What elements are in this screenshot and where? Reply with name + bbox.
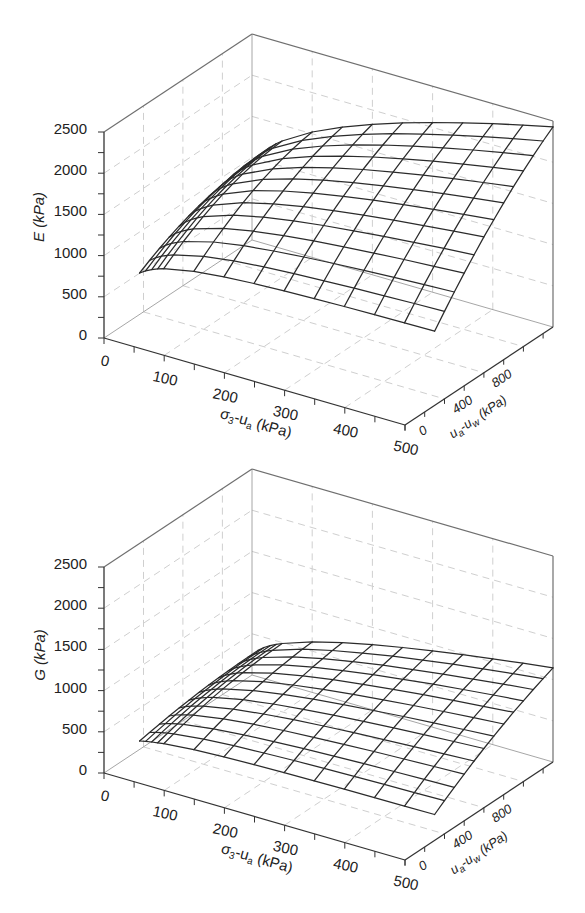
z-tick-label: 1500 [54,637,87,654]
gridlines [104,486,553,842]
z-tick-label: 500 [62,720,87,737]
chart-elastic-modulus-e: 0500100015002000250001002003004005000400… [30,34,553,458]
mesh-line-constant-sigma [405,125,523,323]
box-edge-floor-back [252,240,553,327]
mesh-line-constant-sigma [158,144,276,269]
z-axis-title: E (kPa) [30,192,47,242]
y-tick-label: 800 [488,801,515,826]
box-edge-top-left [104,34,252,132]
gridline-floor [183,286,484,373]
mesh-line-constant-sigma [374,124,492,315]
box-edge-top-left [104,469,252,567]
y-tick-label: 0 [416,857,431,874]
box-edge-top-back [252,34,553,121]
mesh-line-constant-suction [189,697,484,748]
z-tick-label: 500 [62,285,87,302]
x-tick-label: 0 [99,351,111,369]
x-tick-label: 100 [151,802,179,824]
gridline-floor [345,310,493,408]
z-tick-label: 1500 [54,202,87,219]
y-tick-label: 0 [416,422,431,439]
mesh-line-constant-suction [258,642,553,668]
gridline-back-wall [252,158,553,245]
y-tick-label: 400 [449,827,476,852]
mesh-line-constant-suction [140,741,435,815]
gridlines [104,51,553,407]
mesh-line-constant-suction [228,156,523,179]
axes-box [104,34,553,338]
gridline-floor [224,710,372,808]
y-axis-title-unit: (kPa) [472,392,509,424]
z-tick-label: 1000 [54,244,87,261]
surface-wireframe [140,642,553,815]
z-tick-label: 0 [79,326,87,343]
x-tick-label: 100 [151,367,179,389]
mesh-line-constant-suction [189,203,484,237]
gridline-floor [224,275,372,373]
x-tick-label: 200 [211,819,239,841]
z-tick-label: 2000 [54,161,87,178]
box-edge-top-back [252,469,553,556]
x-tick-label: 500 [392,437,420,459]
gridline-floor [285,292,433,390]
gridline-left-wall [104,75,252,173]
gridline-left-wall [104,510,252,608]
axes: 0500100015002000250001002003004005000400… [54,555,553,893]
x-tick-label: 400 [332,854,360,876]
z-tick-label: 1000 [54,679,87,696]
mesh-line-constant-suction [169,228,464,273]
z-tick-label: 2500 [54,120,87,137]
z-tick-label: 2000 [54,596,87,613]
gridline-back-wall [252,510,553,597]
mesh-line-constant-suction [159,724,454,788]
mesh-line-constant-suction [150,732,445,800]
figure: 0500100015002000250001002003004005000400… [0,0,585,913]
mesh-line-constant-suction [219,167,514,187]
z-tick-label: 0 [79,761,87,778]
x-tick-label: 200 [211,384,239,406]
z-axis-title: G (kPa) [31,629,48,681]
surface-wireframe [140,123,553,332]
mesh-line-constant-suction [140,269,435,332]
y-tick-label: 800 [488,366,515,391]
y-tick-label: 400 [449,392,476,417]
x-tick-label: 500 [392,872,420,894]
gridline-back-wall [252,199,553,286]
gridline-back-wall [252,551,553,638]
y-axis-title-unit: (kPa) [473,828,510,860]
mesh-line-constant-suction [209,681,504,724]
gridline-floor [183,721,484,808]
gridline-floor [144,312,445,399]
gridline-left-wall [104,551,252,649]
x-tick-label: 0 [99,786,111,804]
gridline-left-wall [104,593,252,691]
x-tick-label: 400 [332,419,360,441]
mesh-line-constant-sigma [224,127,342,277]
z-tick-label: 2500 [54,555,87,572]
gridline-left-wall [104,116,252,214]
chart-shear-modulus-g: 0500100015002000250001002003004005000400… [31,469,553,893]
